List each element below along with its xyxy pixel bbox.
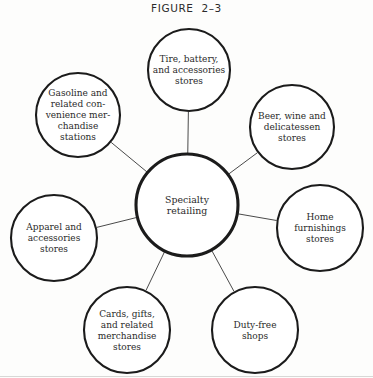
node-label-cards-gifts-related-merchandise-stores: Cards, gifts, bbox=[99, 309, 155, 319]
node-label-gasoline-related-convenience-merchandise-stations: venience mer- bbox=[45, 110, 111, 120]
node-label-home-furnishings-stores: furnishings bbox=[294, 223, 346, 233]
node-label-gasoline-related-convenience-merchandise-stations: chandise bbox=[58, 121, 99, 131]
connector-hub-to-tire-battery-accessories-stores bbox=[188, 112, 189, 153]
node-label-tire-battery-accessories-stores: Tire, battery, bbox=[160, 54, 219, 64]
node-label-cards-gifts-related-merchandise-stores: merchandise bbox=[98, 331, 157, 341]
node-label-apparel-and-accessories-stores: Apparel and bbox=[25, 222, 82, 232]
node-label-gasoline-related-convenience-merchandise-stations: stations bbox=[60, 132, 96, 142]
node-label-apparel-and-accessories-stores: stores bbox=[40, 244, 68, 254]
page-bottom-rule bbox=[0, 376, 373, 377]
node-label-beer-wine-delicatessen-stores: Beer, wine and bbox=[258, 111, 326, 121]
node-label-tire-battery-accessories-stores: stores bbox=[175, 76, 203, 86]
connector-hub-to-cards-gifts-related-merchandise-stores bbox=[146, 252, 164, 290]
node-label-tire-battery-accessories-stores: and accessories bbox=[153, 65, 226, 75]
figure-page: FIGURE 2–3 Tire, battery,and accessories… bbox=[0, 0, 373, 378]
connector-hub-to-beer-wine-delicatessen-stores bbox=[229, 153, 258, 174]
node-label-specialty-retailing: retailing bbox=[167, 205, 207, 216]
concept-map-diagram: Tire, battery,and accessoriesstoresBeer,… bbox=[0, 0, 373, 378]
node-label-duty-free-shops: shops bbox=[242, 331, 269, 341]
connector-hub-to-apparel-and-accessories-stores bbox=[97, 218, 137, 228]
node-label-beer-wine-delicatessen-stores: stores bbox=[278, 133, 306, 143]
node-label-gasoline-related-convenience-merchandise-stations: related con- bbox=[51, 99, 106, 109]
connector-hub-to-gasoline-related-convenience-merchandise-stations bbox=[111, 142, 147, 172]
node-group: Tire, battery,and accessoriesstoresBeer,… bbox=[11, 29, 363, 373]
node-label-specialty-retailing: Specialty bbox=[165, 194, 210, 205]
node-label-cards-gifts-related-merchandise-stores: stores bbox=[113, 342, 141, 352]
node-label-duty-free-shops: Duty-free bbox=[233, 320, 276, 330]
connector-hub-to-home-furnishings-stores bbox=[238, 214, 276, 221]
node-label-cards-gifts-related-merchandise-stores: and related bbox=[101, 320, 154, 330]
node-label-apparel-and-accessories-stores: accessories bbox=[28, 233, 81, 243]
node-label-gasoline-related-convenience-merchandise-stations: Gasoline and bbox=[48, 88, 107, 98]
node-label-home-furnishings-stores: Home bbox=[306, 212, 333, 222]
node-label-home-furnishings-stores: stores bbox=[306, 234, 334, 244]
connector-hub-to-duty-free-shops bbox=[212, 251, 234, 292]
node-label-beer-wine-delicatessen-stores: delicatessen bbox=[264, 122, 321, 132]
